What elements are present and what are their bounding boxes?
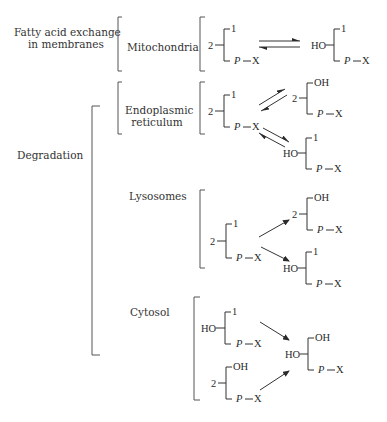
- svg-text:P: P: [316, 108, 324, 119]
- svg-text:P: P: [235, 338, 243, 349]
- mito-inner-bracket: [200, 17, 205, 71]
- svg-text:HO: HO: [285, 349, 301, 360]
- svg-text:X: X: [335, 108, 343, 119]
- svg-text:1: 1: [231, 23, 236, 34]
- svg-text:P: P: [235, 252, 243, 263]
- svg-text:X: X: [254, 338, 262, 349]
- exchange-er-bracket: [118, 82, 122, 134]
- cytosol-lyso1-structure: HO 1 P X: [201, 306, 262, 349]
- svg-text:X: X: [334, 163, 342, 174]
- svg-text:HO: HO: [283, 263, 299, 274]
- er-lyso1-structure: HO 1 P X: [283, 132, 342, 174]
- svg-text:P: P: [233, 55, 241, 66]
- er-diacyl-structure: 2 1 P X: [208, 89, 260, 132]
- svg-text:HO: HO: [311, 40, 327, 51]
- svg-text:HO: HO: [201, 323, 217, 334]
- svg-text:X: X: [336, 364, 344, 375]
- svg-text:OH: OH: [314, 192, 330, 203]
- svg-text:P: P: [343, 55, 351, 66]
- pathway-diagram: 2 1 P X HO 1 P X 2 1 P X 2 OH P X: [0, 0, 387, 422]
- er-lyso2-structure: 2 OH P X: [292, 77, 343, 119]
- svg-text:1: 1: [341, 23, 346, 34]
- svg-text:P: P: [317, 364, 325, 375]
- svg-text:1: 1: [313, 246, 318, 257]
- cytosol-glycerophosphate-structure: HO OH P X: [285, 332, 344, 375]
- svg-text:2: 2: [211, 378, 216, 389]
- svg-text:1: 1: [313, 132, 318, 143]
- lysosomes-lyso2-structure: 2 OH P X: [292, 192, 343, 235]
- lysosomes-lyso1-structure: HO 1 P X: [283, 246, 342, 289]
- svg-text:X: X: [362, 55, 370, 66]
- svg-text:P: P: [316, 224, 324, 235]
- svg-text:2: 2: [292, 209, 297, 220]
- svg-text:OH: OH: [314, 77, 330, 88]
- degradation-bracket: [92, 106, 100, 355]
- mito-lyso-structure: HO 1 P X: [311, 23, 370, 66]
- cytosol-arrow-from-lyso1: [260, 322, 289, 340]
- svg-text:2: 2: [292, 93, 297, 104]
- svg-text:OH: OH: [315, 332, 331, 343]
- cytosol-inner-bracket: [194, 297, 200, 400]
- svg-text:2: 2: [208, 106, 213, 117]
- exchange-mito-bracket: [118, 17, 122, 71]
- svg-text:P: P: [235, 393, 243, 404]
- svg-text:X: X: [335, 224, 343, 235]
- svg-text:X: X: [252, 121, 260, 132]
- svg-text:2: 2: [208, 40, 213, 51]
- svg-text:P: P: [315, 163, 323, 174]
- svg-text:P: P: [315, 278, 323, 289]
- svg-text:1: 1: [233, 218, 238, 229]
- svg-text:X: X: [334, 278, 342, 289]
- svg-text:2: 2: [210, 236, 215, 247]
- cytosol-lyso2-structure: 2 OH P X: [211, 361, 262, 404]
- svg-text:1: 1: [232, 306, 237, 317]
- lysosomes-inner-bracket: [200, 190, 205, 268]
- cytosol-arrow-from-lyso2: [260, 371, 289, 390]
- lysosomes-arrow-down: [261, 247, 289, 261]
- svg-text:OH: OH: [233, 361, 249, 372]
- er-inner-bracket: [200, 82, 205, 134]
- mito-diacyl-structure: 2 1 P X: [208, 23, 260, 66]
- svg-text:X: X: [254, 393, 262, 404]
- svg-text:P: P: [233, 121, 241, 132]
- svg-text:HO: HO: [283, 148, 299, 159]
- lysosomes-arrow-up: [259, 220, 289, 237]
- lysosomes-diacyl-structure: 2 1 P X: [210, 218, 262, 263]
- svg-text:1: 1: [231, 89, 236, 100]
- svg-text:X: X: [252, 55, 260, 66]
- svg-text:X: X: [254, 252, 262, 263]
